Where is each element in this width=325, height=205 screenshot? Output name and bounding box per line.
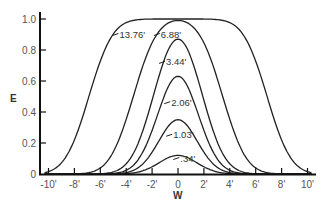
- curve-label: 1.03': [173, 129, 193, 140]
- curve-label: 2.06': [171, 97, 191, 108]
- label-leader: [166, 134, 172, 136]
- y-ticks: 00.20.40.60.81.0: [22, 14, 46, 180]
- y-axis-label: E: [10, 93, 17, 104]
- x-tick-label: 2': [200, 179, 208, 190]
- curve-label: .34': [180, 153, 195, 164]
- x-tick-label: 4': [226, 179, 234, 190]
- curve-label: 6.88': [161, 29, 181, 40]
- label-leader: [159, 61, 165, 63]
- x-tick-label: 10': [301, 179, 314, 190]
- label-leader: [164, 102, 170, 104]
- y-tick-label: 0.8: [22, 45, 36, 56]
- x-tick-label: 6': [252, 179, 260, 190]
- x-tick-label: 8': [278, 179, 286, 190]
- x-axis-label: W: [173, 190, 183, 201]
- x-tick-label: 0: [175, 179, 181, 190]
- x-tick-label: -4': [121, 179, 132, 190]
- x-tick-label: -10': [40, 179, 56, 190]
- curve-206: [45, 76, 312, 174]
- x-tick-label: -2': [147, 179, 158, 190]
- y-tick-label: 1.0: [22, 14, 36, 25]
- x-tick-label: -8': [69, 179, 80, 190]
- y-tick-label: 0.4: [22, 107, 36, 118]
- curve-label: 3.44': [166, 56, 186, 67]
- chart: 13.76'6.88'3.44'2.06'1.03'.34' 00.20.40.…: [0, 0, 325, 205]
- x-tick-label: -6': [95, 179, 106, 190]
- label-leader: [173, 158, 179, 160]
- curve-labels: 13.76'6.88'3.44'2.06'1.03'.34': [112, 29, 195, 164]
- curve-label: 13.76': [119, 29, 145, 40]
- x-ticks: -10'-8'-6'-4'-2'02'4'6'8'10': [40, 168, 314, 190]
- y-tick-label: 0: [30, 169, 36, 180]
- y-tick-label: 0.2: [22, 138, 36, 149]
- y-tick-label: 0.6: [22, 76, 36, 87]
- curve-103: [45, 120, 312, 174]
